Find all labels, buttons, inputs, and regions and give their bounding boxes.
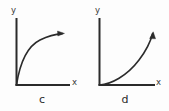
curve-c-arrowhead [58, 31, 65, 36]
panel-caption-c: c [28, 94, 56, 105]
x-axis-label-c: x [72, 78, 77, 87]
panel-caption-d: d [111, 94, 139, 105]
y-axis-label-c: y [11, 6, 16, 15]
curve-d-arrowhead [150, 32, 156, 39]
figure-root: y x c y x d [0, 0, 169, 111]
panel-d: y x d [85, 0, 169, 111]
panel-c: y x c [0, 0, 84, 111]
y-axis-label-d: y [95, 6, 100, 15]
curve-d [100, 34, 153, 86]
curve-c [17, 34, 63, 85]
x-axis-label-d: x [156, 78, 161, 87]
